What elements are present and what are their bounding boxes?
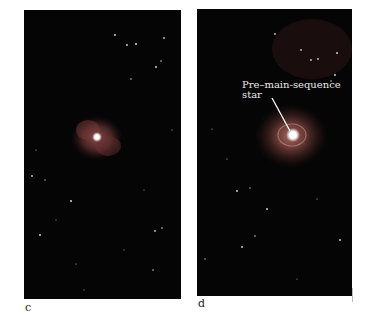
faint-nebula-d	[272, 19, 352, 79]
starfield-d	[197, 9, 352, 296]
edge-mark	[352, 288, 353, 302]
annotation-pre-main-sequence-star: Pre–main-sequence star	[242, 80, 341, 100]
central-star-c	[92, 132, 102, 142]
panel-label-d: d	[198, 298, 205, 309]
central-star-d	[286, 128, 300, 142]
starfield-c	[24, 10, 181, 299]
field-stars-c	[31, 34, 172, 291]
panel-label-c: c	[25, 302, 31, 313]
image-panel-c	[24, 10, 181, 299]
image-panel-d: Pre–main-sequence star	[197, 9, 352, 296]
